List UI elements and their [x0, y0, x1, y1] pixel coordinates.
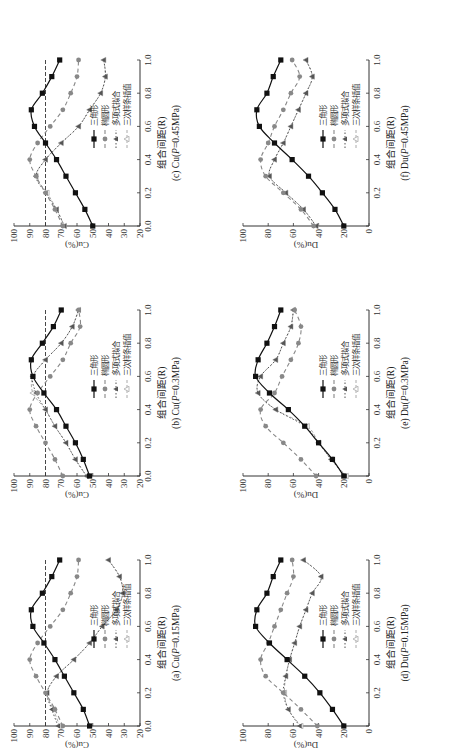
series-2: [44, 557, 124, 728]
legend-label: 三次样条插值: [122, 83, 132, 126]
y-axis-label: Du(%): [294, 740, 319, 750]
y-tick-label: 40: [314, 479, 324, 489]
y-tick-label: 60: [72, 479, 82, 489]
chart-d: 0204060801000.20.40.60.81.0Du(%)组合间距(R)(…: [229, 501, 458, 751]
y-tick-label: 80: [263, 479, 273, 489]
x-tick-label: 0.6: [372, 620, 382, 632]
y-tick-label: 80: [263, 729, 273, 739]
y-tick-label: 40: [314, 729, 324, 739]
y-tick-label: 0: [364, 229, 374, 234]
x-tick-label: 1.0: [143, 304, 153, 316]
y-axis-label: Cu(%): [65, 490, 89, 500]
y-tick-label: 90: [25, 729, 35, 739]
legend-label: 三次样条插值: [351, 83, 361, 126]
series-1: [27, 58, 81, 229]
chart-svg: 0204060801000.20.40.60.81.0Du(%)组合间距(R)(…: [229, 1, 458, 251]
chart-caption: (d) Du(P=0.15MPa): [400, 604, 411, 681]
y-tick-label: 90: [25, 229, 35, 239]
x-tick-label: 0.8: [143, 587, 153, 599]
y-axis-label: Cu(%): [65, 740, 89, 750]
legend: 三角形椭圆形多项式拟合三次样条插值: [89, 333, 132, 398]
x-tick-label: 0.8: [372, 337, 382, 349]
x-tick-label: 0.6: [372, 370, 382, 382]
legend-label: 三次样条插值: [122, 333, 132, 376]
x-tick-label: 0.4: [143, 403, 153, 415]
series-3: [44, 557, 125, 728]
x-tick-label: 0.8: [143, 337, 153, 349]
legend-label: 三次样条插值: [351, 583, 361, 626]
legend-label: 多项式拟合: [340, 90, 350, 126]
x-axis-label: 组合间距(R): [156, 117, 168, 170]
legend-label: 多项式拟合: [340, 340, 350, 376]
y-tick-label: 50: [88, 729, 98, 739]
legend-label: 椭圆形: [330, 604, 339, 626]
legend: 三角形椭圆形多项式拟合三次样条插值: [89, 83, 132, 148]
y-tick-label: 40: [104, 729, 114, 739]
chart-svg: 20304050607080901000.00.20.40.60.81.0Cu(…: [0, 1, 229, 251]
chart-e: 0204060801000.20.40.60.81.0Du(%)组合间距(R)(…: [229, 251, 458, 501]
y-tick-label: 60: [288, 479, 298, 489]
x-tick-label: 0.8: [372, 587, 382, 599]
y-tick-label: 60: [72, 729, 82, 739]
x-tick-label: 1.0: [143, 54, 153, 66]
y-tick-label: 100: [238, 229, 248, 243]
chart-caption: (b) Cu(P=0.3MPa): [171, 357, 182, 429]
legend: 三角形椭圆形多项式拟合三次样条插值: [89, 583, 132, 648]
chart-caption: (c) Cu(P=0.45MPa): [171, 105, 182, 181]
legend-label: 三次样条插值: [122, 583, 132, 626]
y-tick-label: 20: [339, 229, 349, 239]
chart-a: 20304050607080901000.00.20.40.60.81.0Cu(…: [0, 501, 229, 751]
x-tick-label: 0.6: [143, 120, 153, 132]
axes: 0204060801000.20.40.60.81.0: [238, 54, 382, 243]
y-tick-label: 100: [9, 729, 19, 743]
series-1: [27, 308, 82, 479]
y-tick-label: 0: [364, 729, 374, 734]
x-tick-label: 0.2: [143, 437, 153, 448]
x-tick-label: 0.4: [143, 653, 153, 665]
chart-caption: (e) Du(P=0.3MPa): [400, 357, 411, 429]
y-tick-label: 50: [88, 479, 98, 489]
y-tick-label: 70: [56, 729, 66, 739]
y-tick-label: 90: [25, 479, 35, 489]
y-tick-label: 40: [314, 229, 324, 239]
legend-label: 椭圆形: [330, 354, 339, 376]
chart-svg: 0204060801000.20.40.60.81.0Du(%)组合间距(R)(…: [229, 251, 458, 501]
y-tick-label: 80: [41, 729, 51, 739]
legend: 三角形椭圆形多项式拟合三次样条插值: [318, 583, 361, 648]
series-1: [258, 58, 316, 229]
axes: 0204060801000.20.40.60.81.0: [238, 304, 382, 493]
x-tick-label: 0.0: [143, 720, 153, 732]
x-tick-label: 0.4: [372, 403, 382, 415]
y-tick-label: 30: [119, 729, 129, 739]
chart-caption: (f) Du(P=0.45MPa): [400, 105, 411, 181]
series-0: [253, 307, 346, 478]
y-tick-label: 100: [9, 479, 19, 493]
y-tick-label: 50: [88, 229, 98, 239]
x-tick-label: 0.6: [143, 620, 153, 632]
legend-label: 三角形: [318, 354, 328, 376]
y-tick-label: 20: [339, 729, 349, 739]
legend-label: 三角形: [318, 104, 328, 126]
x-tick-label: 1.0: [143, 554, 153, 566]
y-tick-label: 80: [41, 229, 51, 239]
x-tick-label: 0.6: [143, 370, 153, 382]
legend-label: 三角形: [89, 104, 99, 126]
legend-label: 多项式拟合: [111, 590, 121, 626]
y-axis-label: Cu(%): [65, 240, 89, 250]
x-tick-label: 1.0: [372, 304, 382, 316]
chart-f: 0204060801000.20.40.60.81.0Du(%)组合间距(R)(…: [229, 1, 458, 251]
legend-label: 多项式拟合: [340, 590, 350, 626]
y-tick-label: 80: [41, 479, 51, 489]
y-tick-label: 70: [56, 229, 66, 239]
y-tick-label: 60: [288, 729, 298, 739]
chart-svg: 20304050607080901000.00.20.40.60.81.0Cu(…: [0, 501, 229, 751]
chart-b: 20304050607080901000.00.20.40.60.81.0Cu(…: [0, 251, 229, 501]
series-0: [253, 557, 346, 728]
chart-svg: 0204060801000.20.40.60.81.0Du(%)组合间距(R)(…: [229, 501, 458, 751]
axes: 20304050607080901000.00.20.40.60.81.0: [9, 54, 153, 243]
y-tick-label: 40: [104, 229, 114, 239]
figure-stage: 20304050607080901000.00.20.40.60.81.0Cu(…: [0, 0, 458, 751]
x-tick-label: 0.0: [143, 220, 153, 232]
x-tick-label: 0.2: [143, 687, 153, 698]
y-tick-label: 30: [119, 229, 129, 239]
